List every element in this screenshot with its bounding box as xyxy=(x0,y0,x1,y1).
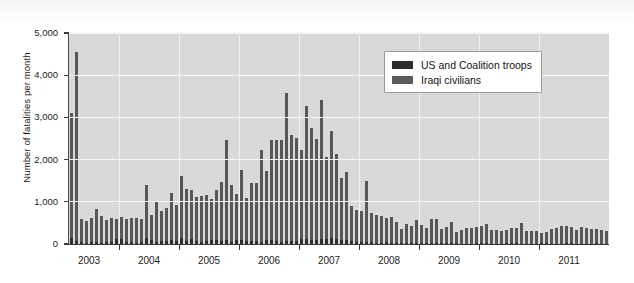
bar-iraqi-civilians xyxy=(595,229,598,243)
bar-iraqi-civilians xyxy=(475,227,478,243)
bar-us-coalition-troops xyxy=(210,240,213,244)
bar-us-coalition-troops xyxy=(455,243,458,244)
bar-iraqi-civilians xyxy=(505,230,508,244)
gridline-vertical xyxy=(239,33,240,244)
bar-iraqi-civilians xyxy=(115,219,118,239)
bar-us-coalition-troops xyxy=(235,240,238,244)
gridline-horizontal xyxy=(69,201,609,202)
bar-iraqi-civilians xyxy=(555,228,558,244)
bar-iraqi-civilians xyxy=(370,213,373,242)
bar-iraqi-civilians xyxy=(335,154,338,239)
bar-us-coalition-troops xyxy=(485,243,488,244)
y-tick-label: 3,000 xyxy=(0,111,58,122)
bar-us-coalition-troops xyxy=(260,242,263,244)
bar-us-coalition-troops xyxy=(90,242,93,244)
x-tick-label: 2007 xyxy=(299,255,359,266)
bar-iraqi-civilians xyxy=(140,219,143,242)
bar-us-coalition-troops xyxy=(220,241,223,244)
x-tick-mark xyxy=(299,244,300,250)
gridline-vertical xyxy=(299,33,300,244)
bar-us-coalition-troops xyxy=(105,242,108,244)
bar-us-coalition-troops xyxy=(355,242,358,244)
y-tick-mark xyxy=(64,159,69,160)
bar-iraqi-civilians xyxy=(385,218,388,242)
bar-iraqi-civilians xyxy=(270,140,273,241)
x-tick-label: 2005 xyxy=(179,255,239,266)
bar-iraqi-civilians xyxy=(320,100,323,239)
bar-iraqi-civilians xyxy=(130,218,133,242)
y-tick-label: 5,000 xyxy=(0,27,58,38)
bar-us-coalition-troops xyxy=(190,239,193,244)
bar-us-coalition-troops xyxy=(545,243,548,244)
bar-us-coalition-troops xyxy=(80,242,83,244)
bar-iraqi-civilians xyxy=(495,230,498,244)
bar-us-coalition-troops xyxy=(540,243,543,244)
bar-iraqi-civilians xyxy=(500,231,503,244)
bar-us-coalition-troops xyxy=(150,240,153,244)
bar-us-coalition-troops xyxy=(160,241,163,244)
bar-iraqi-civilians xyxy=(405,224,408,243)
bar-iraqi-civilians xyxy=(560,226,563,244)
bar-iraqi-civilians xyxy=(165,208,168,241)
legend-swatch-troops-icon xyxy=(392,61,413,69)
bar-iraqi-civilians xyxy=(605,231,608,244)
x-tick-mark xyxy=(359,244,360,250)
bar-iraqi-civilians xyxy=(535,231,538,244)
bar-us-coalition-troops xyxy=(255,241,258,244)
x-tick-mark xyxy=(479,244,480,250)
x-tick-label: 2004 xyxy=(119,255,179,266)
bar-us-coalition-troops xyxy=(185,241,188,244)
bar-us-coalition-troops xyxy=(565,243,568,244)
bar-iraqi-civilians xyxy=(230,185,233,242)
bar-iraqi-civilians xyxy=(120,217,123,239)
bar-us-coalition-troops xyxy=(345,240,348,244)
bar-iraqi-civilians xyxy=(290,135,293,240)
bar-us-coalition-troops xyxy=(130,242,133,244)
bar-us-coalition-troops xyxy=(350,241,353,244)
bar-iraqi-civilians xyxy=(565,226,568,243)
bar-iraqi-civilians xyxy=(420,225,423,243)
bar-iraqi-civilians xyxy=(455,232,458,243)
legend-item-civilians: Iraqi civilians xyxy=(392,72,532,87)
bar-iraqi-civilians xyxy=(440,229,443,244)
bar-us-coalition-troops xyxy=(200,242,203,244)
bar-us-coalition-troops xyxy=(70,238,73,244)
gridline-vertical xyxy=(179,33,180,244)
x-tick-label: 2010 xyxy=(479,255,539,266)
x-tick-label: 2011 xyxy=(539,255,599,266)
x-tick-mark xyxy=(239,244,240,250)
x-tick-label: 2008 xyxy=(359,255,419,266)
gridline-vertical xyxy=(359,33,360,244)
bar-us-coalition-troops xyxy=(325,239,328,244)
bar-iraqi-civilians xyxy=(445,227,448,243)
bar-iraqi-civilians xyxy=(390,217,393,242)
bar-us-coalition-troops xyxy=(170,240,173,244)
bar-us-coalition-troops xyxy=(395,243,398,244)
bar-us-coalition-troops xyxy=(275,241,278,244)
bar-us-coalition-troops xyxy=(380,243,383,244)
bar-iraqi-civilians xyxy=(125,219,128,242)
bar-iraqi-civilians xyxy=(200,196,203,242)
bar-iraqi-civilians xyxy=(175,205,178,241)
bar-us-coalition-troops xyxy=(265,240,268,244)
bar-iraqi-civilians xyxy=(210,199,213,241)
bar-iraqi-civilians xyxy=(450,222,453,243)
bar-iraqi-civilians xyxy=(135,218,138,242)
bar-iraqi-civilians xyxy=(575,230,578,244)
bar-iraqi-civilians xyxy=(545,232,548,243)
bar-iraqi-civilians xyxy=(75,52,78,241)
bar-us-coalition-troops xyxy=(180,238,183,244)
x-tick-mark xyxy=(179,244,180,250)
bar-iraqi-civilians xyxy=(380,216,383,243)
bar-iraqi-civilians xyxy=(95,209,98,242)
bar-us-coalition-troops xyxy=(310,240,313,244)
bar-iraqi-civilians xyxy=(365,181,368,242)
bar-iraqi-civilians xyxy=(585,228,588,244)
bar-us-coalition-troops xyxy=(475,243,478,244)
bar-iraqi-civilians xyxy=(485,224,488,243)
bar-us-coalition-troops xyxy=(290,241,293,244)
bar-iraqi-civilians xyxy=(570,227,573,244)
y-tick-mark xyxy=(64,243,69,244)
bar-iraqi-civilians xyxy=(105,220,108,242)
bar-iraqi-civilians xyxy=(345,172,348,240)
